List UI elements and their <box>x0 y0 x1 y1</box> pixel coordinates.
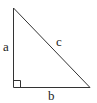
label-a: a <box>3 39 9 54</box>
right-angle-marker <box>14 81 21 88</box>
right-triangle-diagram: a c b <box>0 0 97 103</box>
label-c: c <box>56 34 62 49</box>
label-b: b <box>48 88 55 103</box>
hypotenuse-c <box>14 8 91 88</box>
